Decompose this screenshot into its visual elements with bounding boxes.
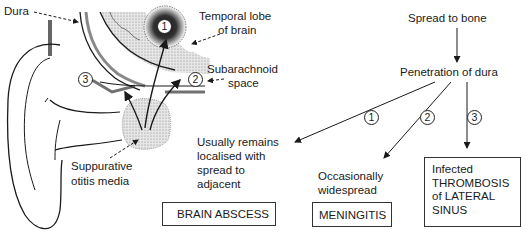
- branch-marker-1: 1: [364, 110, 379, 125]
- outcome-3-line-3: of LATERAL: [432, 190, 520, 204]
- branch-marker-2: 2: [420, 110, 435, 125]
- outcome-3-line-2: THROMBOSIS: [432, 177, 520, 191]
- label-otitis-1: Suppurative: [71, 160, 132, 174]
- label-temporal-lobe-1: Temporal lobe: [199, 10, 271, 24]
- outcome-3-line-4: SINUS: [432, 204, 520, 218]
- outcome-meningitis: MENINGITIS: [312, 202, 392, 227]
- marker-1: 1: [157, 19, 172, 34]
- outcome-lateral-sinus-thrombosis: Infected THROMBOSIS of LATERAL SINUS: [424, 157, 521, 227]
- ear-outline: [8, 44, 122, 228]
- flow-step: Penetration of dura: [400, 66, 498, 80]
- branch-1-desc-1: Usually remains: [197, 136, 279, 150]
- outcome-3-line-1: Infected: [432, 163, 520, 177]
- branch-1-desc-4: adjacent: [197, 178, 240, 192]
- branch-1-desc-2: localised with: [197, 150, 265, 164]
- otitis-media-region: [122, 98, 170, 149]
- label-subarachnoid-2: space: [228, 77, 259, 91]
- marker-3: 3: [78, 72, 93, 87]
- branch-marker-3: 3: [467, 110, 482, 125]
- flow-arrows: [295, 28, 467, 158]
- label-subarachnoid-1: Subarachnoid: [207, 63, 278, 77]
- label-temporal-lobe-2: of brain: [218, 24, 256, 38]
- branch-1-desc-3: spread to: [197, 164, 245, 178]
- outcome-brain-abscess: BRAIN ABSCESS: [162, 202, 276, 226]
- label-dura: Dura: [4, 5, 29, 19]
- label-otitis-2: otitis media: [71, 175, 129, 189]
- branch-2-desc-1: Occasionally: [318, 170, 383, 184]
- flow-start: Spread to bone: [408, 12, 487, 26]
- marker-2: 2: [188, 72, 203, 87]
- branch-2-desc-2: widespread: [318, 184, 377, 198]
